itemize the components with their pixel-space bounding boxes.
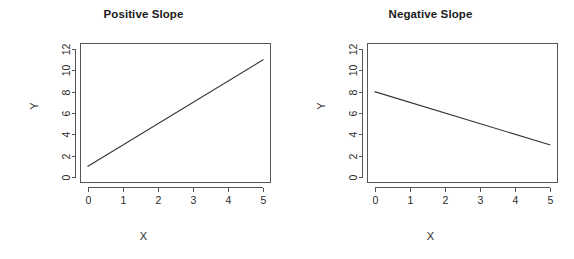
x-tick-label: 2 [443, 194, 449, 206]
y-tick-label: 2 [60, 153, 72, 159]
data-line-negative [375, 92, 551, 145]
x-tick-label: 5 [548, 194, 554, 206]
x-tick-label: 1 [408, 194, 414, 206]
y-tick-label: 6 [60, 110, 72, 116]
y-axis-label-left: Y [28, 94, 40, 118]
x-axis-right: 012345 [373, 188, 554, 207]
y-tick-label: 4 [347, 131, 359, 137]
y-tick-label: 10 [347, 65, 359, 77]
y-axis-label-right: Y [315, 94, 327, 118]
x-tick-label: 3 [478, 194, 484, 206]
x-axis-label-left: X [0, 230, 287, 242]
data-series-line [375, 92, 551, 145]
plot-area-positive-slope: 024681012 012345 [0, 0, 287, 259]
data-line-positive [88, 60, 264, 167]
y-tick-label: 2 [347, 153, 359, 159]
x-tick-label: 0 [373, 194, 379, 206]
x-tick-label: 3 [191, 194, 197, 206]
x-tick-label: 5 [261, 194, 267, 206]
x-tick-label: 4 [513, 194, 519, 206]
plot-area-negative-slope: 024681012 012345 [287, 0, 574, 259]
x-tick-label: 1 [121, 194, 127, 206]
y-axis-right: 024681012 [347, 44, 363, 181]
chart-panel-negative-slope: Negative Slope 024681012 012345 X Y [287, 0, 574, 259]
y-tick-label: 12 [60, 44, 72, 56]
x-tick-label: 2 [156, 194, 162, 206]
y-tick-label: 8 [347, 89, 359, 95]
y-tick-label: 0 [60, 174, 72, 180]
y-axis-left: 024681012 [60, 44, 76, 181]
x-tick-label: 4 [226, 194, 232, 206]
x-tick-label: 0 [86, 194, 92, 206]
x-axis-label-right: X [287, 230, 574, 242]
y-tick-label: 10 [60, 65, 72, 77]
chart-panel-positive-slope: Positive Slope 024681012 012345 X Y [0, 0, 287, 259]
y-tick-label: 0 [347, 174, 359, 180]
y-tick-label: 12 [347, 44, 359, 56]
data-series-line [88, 60, 264, 167]
y-tick-label: 8 [60, 89, 72, 95]
plot-frame-right [368, 44, 558, 183]
x-axis-left: 012345 [86, 188, 267, 207]
figure-canvas: Positive Slope 024681012 012345 X Y Nega… [0, 0, 574, 259]
y-tick-label: 6 [347, 110, 359, 116]
y-tick-label: 4 [60, 131, 72, 137]
